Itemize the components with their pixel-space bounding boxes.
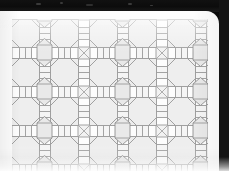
speck [36,3,41,5]
speck [128,3,132,5]
speck [86,4,93,6]
tessellation-svg [12,19,208,171]
speck [60,2,63,4]
speck [150,5,153,6]
tessellation-figure [12,19,208,171]
paper-card [0,11,219,171]
right-dark-gutter [219,0,229,171]
photo-scene: Geometric tessellation pattern Semi-regu… [0,0,229,171]
